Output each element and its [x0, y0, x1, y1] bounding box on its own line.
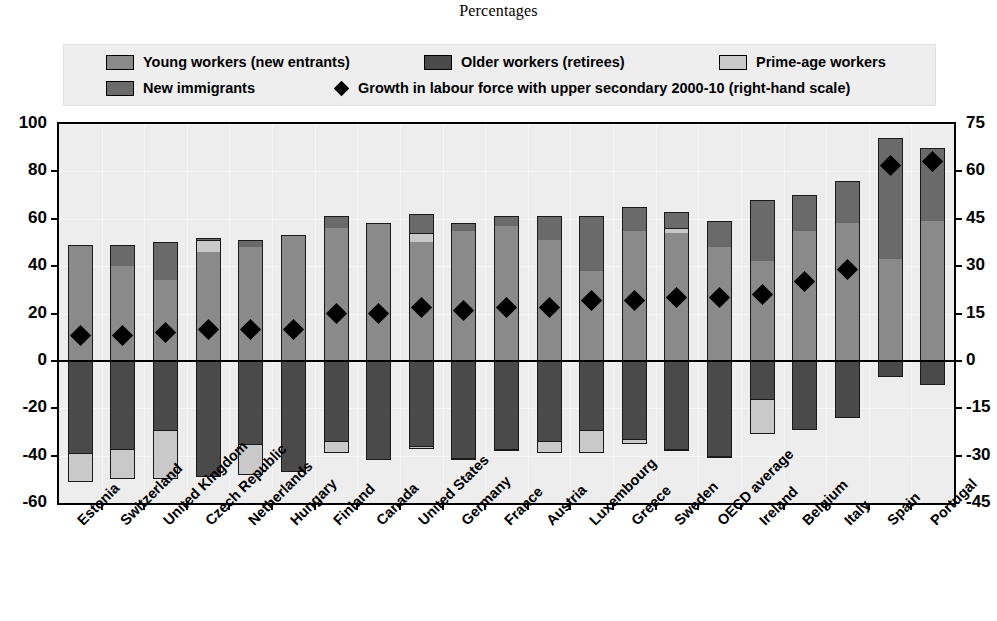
bar-group[interactable]: [707, 124, 732, 503]
bar-segment-older: [409, 361, 434, 446]
zero-axis-line: [59, 360, 954, 362]
bar-group[interactable]: [68, 124, 93, 503]
bar-segment-older: [878, 361, 903, 378]
bar-segment-prime_neg: [707, 456, 732, 458]
bar-segment-young: [196, 252, 221, 361]
bar-segment-prime_neg: [324, 441, 349, 453]
swatch-icon-new-immigrants: [106, 81, 134, 96]
y-axis-label-right: 15: [966, 303, 985, 323]
bar-segment-immigrants: [835, 181, 860, 224]
bar-segment-immigrants: [409, 214, 434, 233]
bar-segment-older: [494, 361, 519, 449]
y-axis-tick-left: [51, 313, 59, 315]
bar-group[interactable]: [792, 124, 817, 503]
y-axis-tick-right: [954, 313, 962, 315]
gridline-vertical: [485, 124, 486, 503]
bar-segment-young: [281, 235, 306, 361]
bar-group[interactable]: [750, 124, 775, 503]
y-axis-tick-right: [954, 170, 962, 172]
y-axis-tick-right: [954, 265, 962, 267]
bar-segment-prime_neg: [68, 453, 93, 481]
swatch-icon-young-workers: [106, 55, 134, 70]
y-axis-tick-left: [51, 455, 59, 457]
legend-item-new-immigrants: New immigrants: [106, 75, 255, 101]
bar-segment-immigrants: [750, 200, 775, 262]
gridline-vertical: [315, 124, 316, 503]
bar-segment-immigrants: [579, 216, 604, 270]
bar-segment-prime_neg: [622, 439, 647, 444]
y-axis-tick-right: [954, 218, 962, 220]
gridline-vertical: [741, 124, 742, 503]
y-axis-tick-left: [51, 407, 59, 409]
bar-segment-prime: [409, 233, 434, 242]
gridline-vertical: [443, 124, 444, 503]
bar-segment-young: [579, 271, 604, 361]
bar-segment-older: [579, 361, 604, 430]
bar-segment-prime_neg: [579, 430, 604, 454]
legend-item-older-workers: Older workers (retirees): [424, 49, 625, 75]
bar-segment-older: [835, 361, 860, 418]
y-axis-label-left: 20: [28, 303, 47, 323]
bar-group[interactable]: [664, 124, 689, 503]
y-axis-label-right: -15: [966, 397, 991, 417]
bar-segment-immigrants: [451, 223, 476, 230]
y-axis-label-right: 0: [966, 350, 975, 370]
bar-segment-young: [451, 231, 476, 361]
bar-group[interactable]: [579, 124, 604, 503]
bar-segment-immigrants: [110, 245, 135, 266]
bar-segment-immigrants: [196, 238, 221, 240]
y-axis-tick-left: [51, 360, 59, 362]
plot-inner: [59, 124, 954, 503]
legend-row-1: Young workers (new entrants) Older worke…: [64, 49, 935, 75]
bar-group[interactable]: [196, 124, 221, 503]
bar-group[interactable]: [622, 124, 647, 503]
gridline-vertical: [911, 124, 912, 503]
bar-segment-young: [110, 266, 135, 361]
bar-group[interactable]: [878, 124, 903, 503]
plot-area: 100806040200-20-40-6075604530150-15-30-4…: [57, 122, 956, 505]
y-axis-label-left: 40: [28, 255, 47, 275]
bar-segment-young: [494, 226, 519, 361]
bar-group[interactable]: [153, 124, 178, 503]
gridline-vertical: [187, 124, 188, 503]
bar-segment-young: [835, 223, 860, 360]
legend-label-new-immigrants: New immigrants: [143, 81, 255, 96]
gridline-vertical: [528, 124, 529, 503]
bar-segment-prime_neg: [110, 449, 135, 480]
bar-segment-older: [664, 361, 689, 449]
y-axis-tick-left: [51, 265, 59, 267]
bar-group[interactable]: [920, 124, 945, 503]
bar-segment-older: [537, 361, 562, 442]
legend-label-prime-age-workers: Prime-age workers: [756, 55, 886, 70]
legend-label-growth: Growth in labour force with upper second…: [358, 81, 850, 96]
y-axis-label-left: -60: [22, 492, 47, 512]
bar-segment-prime_neg: [409, 446, 434, 448]
legend-label-older-workers: Older workers (retirees): [461, 55, 625, 70]
bar-segment-prime_neg: [750, 399, 775, 435]
bar-segment-young: [920, 221, 945, 361]
bar-segment-young: [153, 280, 178, 361]
y-axis-label-left: 80: [28, 160, 47, 180]
bar-segment-prime_neg: [664, 449, 689, 451]
gridline-vertical: [826, 124, 827, 503]
diamond-marker-icon: [332, 79, 350, 97]
bar-segment-older: [366, 361, 391, 460]
y-axis-label-right: 75: [966, 113, 985, 133]
bar-segment-prime: [196, 240, 221, 252]
y-axis-tick-right: [954, 360, 962, 362]
gridline-vertical: [102, 124, 103, 503]
y-axis-tick-left: [51, 170, 59, 172]
gridline-vertical: [144, 124, 145, 503]
y-axis-tick-right: [954, 455, 962, 457]
bar-segment-older: [451, 361, 476, 458]
y-axis-label-right: 30: [966, 255, 985, 275]
bar-group[interactable]: [835, 124, 860, 503]
bar-segment-immigrants: [324, 216, 349, 228]
bar-segment-prime: [664, 228, 689, 233]
legend-item-prime-age-workers: Prime-age workers: [719, 49, 886, 75]
y-axis-label-right: -30: [966, 445, 991, 465]
legend-item-growth-marker: Growth in labour force with upper second…: [332, 75, 850, 101]
bar-group[interactable]: [110, 124, 135, 503]
bar-segment-prime_neg: [494, 449, 519, 451]
bar-segment-immigrants: [238, 240, 263, 247]
